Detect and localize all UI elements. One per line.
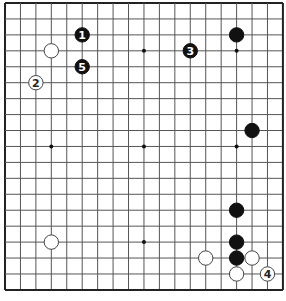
white-stone[interactable] [245, 251, 259, 265]
black-stone[interactable] [229, 28, 243, 42]
go-board: 15234 [0, 0, 286, 301]
stone-circle [229, 251, 243, 265]
stone-circle [229, 203, 243, 217]
white-stone[interactable] [199, 251, 213, 265]
stone-circle [199, 251, 213, 265]
white-stone[interactable] [44, 44, 58, 58]
stone-circle [245, 251, 259, 265]
move-number-label: 3 [186, 45, 194, 58]
move-number-label: 5 [78, 61, 86, 74]
black-stone[interactable] [229, 203, 243, 217]
star-point [142, 49, 146, 53]
stone-circle [229, 267, 243, 281]
white-stone[interactable]: 4 [260, 267, 274, 281]
white-stone[interactable] [229, 267, 243, 281]
stone-circle [44, 44, 58, 58]
stone-circle [245, 123, 259, 137]
white-stone[interactable] [44, 235, 58, 249]
star-point [235, 49, 239, 53]
stone-circle [229, 235, 243, 249]
black-stone[interactable] [245, 123, 259, 137]
star-point [235, 144, 239, 148]
stones-layer: 15234 [29, 28, 275, 282]
black-stone[interactable] [229, 235, 243, 249]
black-stone[interactable]: 1 [75, 28, 89, 42]
black-stone[interactable] [229, 251, 243, 265]
move-number-label: 4 [264, 268, 272, 281]
move-number-label: 1 [78, 29, 86, 42]
white-stone[interactable]: 2 [29, 76, 43, 90]
star-point [142, 240, 146, 244]
stone-circle [44, 235, 58, 249]
stone-circle [229, 28, 243, 42]
star-point [49, 144, 53, 148]
black-stone[interactable]: 3 [183, 44, 197, 58]
star-point [142, 144, 146, 148]
black-stone[interactable]: 5 [75, 60, 89, 74]
move-number-label: 2 [32, 77, 40, 90]
